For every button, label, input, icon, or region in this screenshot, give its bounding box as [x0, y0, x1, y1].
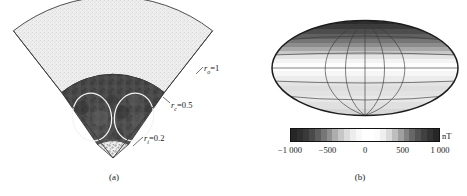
- colorbar-unit-label: nT: [442, 131, 451, 141]
- panel-b: (b): [234, 0, 467, 196]
- radius-label-mid: rc=0.5: [171, 100, 192, 112]
- radius-label-outer: ro=1: [204, 63, 219, 75]
- radius-value-mid: 0.5: [182, 100, 193, 110]
- colorbar-tick-500: 500: [396, 145, 409, 155]
- radius-label-inner: ri=0.2: [144, 133, 164, 145]
- colorbar-tick-0: 0: [363, 145, 367, 155]
- colorbar-gradient: [290, 128, 440, 142]
- colorbar-tick--500: −500: [319, 145, 337, 155]
- figure-container: ro=1 rc=0.5 ri=0.2 (a): [0, 0, 467, 196]
- colorbar-tick-1000: 1 000: [430, 145, 449, 155]
- colorbar-tick-labels: −1 000−50005001 000: [265, 145, 465, 159]
- zone-inner-core: [98, 141, 129, 158]
- hammer-projection-map-svg: [234, 0, 467, 196]
- panel-a-caption: (a): [99, 172, 129, 182]
- radius-value-outer: 1: [215, 63, 219, 73]
- colorbar: [290, 128, 440, 142]
- radius-value-inner: 0.2: [154, 133, 165, 143]
- panel-a: ro=1 rc=0.5 ri=0.2 (a): [0, 0, 234, 196]
- wedge-cross-section-svg: [0, 0, 234, 196]
- colorbar-tick--1000: −1 000: [278, 145, 302, 155]
- colorbar-segment-24: [433, 129, 439, 141]
- panel-b-caption: (b): [345, 172, 375, 182]
